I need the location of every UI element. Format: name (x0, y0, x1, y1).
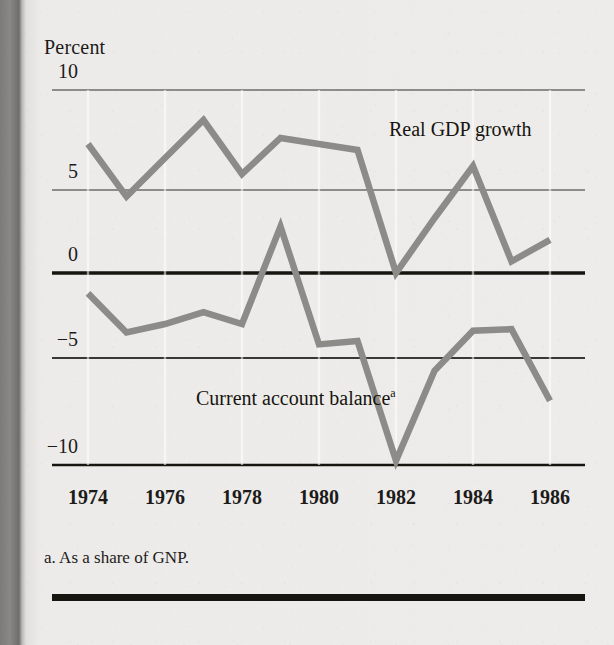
figure: Percent 10 5 0 −5 −10 1974 1976 1978 198… (0, 0, 614, 645)
series-annotation-real-gdp-growth: Real GDP growth (389, 118, 532, 141)
figure-footnote: a. As a share of GNP. (44, 548, 189, 568)
bottom-rule (52, 594, 585, 601)
footnote-marker-a: a (390, 386, 395, 400)
series-annotation-current-account-text: Current account balance (196, 387, 390, 409)
series-annotation-current-account-balance: Current account balancea (196, 386, 396, 410)
